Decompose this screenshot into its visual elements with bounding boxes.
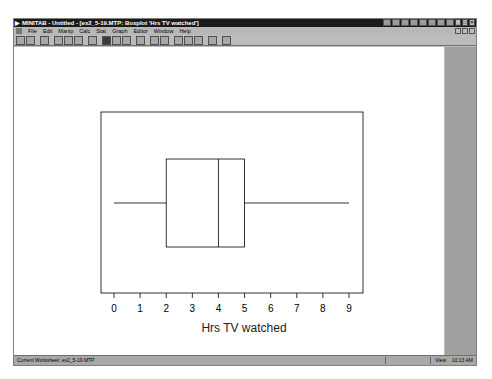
brush-icon[interactable] <box>112 36 121 45</box>
menu-file[interactable]: File <box>28 27 37 35</box>
menu-calc[interactable]: Calc <box>79 27 90 35</box>
x-tick-label: 0 <box>111 303 117 314</box>
tool-button-icon[interactable] <box>419 19 427 26</box>
worksheet-icon[interactable] <box>160 36 169 45</box>
status-divider <box>385 357 386 364</box>
tool-button-icon[interactable] <box>428 19 436 26</box>
menu-editor[interactable]: Editor <box>133 27 147 35</box>
x-tick-label: 8 <box>320 303 326 314</box>
toolbar <box>14 35 476 46</box>
help-icon[interactable] <box>222 36 231 45</box>
minitab-window: ▶MINITAB - Untitled - [ex2_5-19.MTP: Box… <box>13 18 477 366</box>
close-button[interactable]: × <box>469 19 475 26</box>
doc-restore-button[interactable] <box>462 28 468 34</box>
tool-button-icon[interactable] <box>401 19 409 26</box>
restore-button[interactable]: □ <box>462 19 468 26</box>
graph-window: 0123456789 Hrs TV watched <box>14 47 444 357</box>
side-panel <box>445 47 476 357</box>
menu-window[interactable]: Window <box>154 27 174 35</box>
tool-button-icon[interactable] <box>392 19 400 26</box>
x-tick-label: 2 <box>163 303 169 314</box>
manage-icon[interactable] <box>194 36 203 45</box>
doc-close-button[interactable] <box>469 28 475 34</box>
open-icon[interactable] <box>16 36 25 45</box>
title-toolbar <box>383 19 454 27</box>
save-icon[interactable] <box>26 36 35 45</box>
x-axis-tick-labels: 0123456789 <box>111 303 352 314</box>
menu-stat[interactable]: Stat <box>96 27 106 35</box>
undo-icon[interactable] <box>88 36 97 45</box>
menu-bar: File Edit Manip Calc Stat Graph Editor W… <box>14 27 476 35</box>
tool-button-icon[interactable] <box>437 19 445 26</box>
graph-icon[interactable] <box>136 36 145 45</box>
x-tick-label: 4 <box>216 303 222 314</box>
x-tick-label: 1 <box>137 303 143 314</box>
minitab-icon: ▶ <box>15 19 21 27</box>
menu-edit[interactable]: Edit <box>43 27 52 35</box>
history-icon[interactable] <box>184 36 193 45</box>
copy-icon[interactable] <box>64 36 73 45</box>
minimize-button[interactable]: _ <box>455 19 461 26</box>
menu-manip[interactable]: Manip <box>58 27 73 35</box>
status-worksheet: Current Worksheet: ex2_5-19.MTP <box>17 356 94 365</box>
x-axis-ticks <box>114 293 349 298</box>
plot-frame <box>101 112 363 293</box>
document-icon[interactable] <box>16 28 22 34</box>
cut-icon[interactable] <box>54 36 63 45</box>
info-icon[interactable] <box>174 36 183 45</box>
menu-help[interactable]: Help <box>179 27 190 35</box>
session-icon[interactable] <box>150 36 159 45</box>
select-icon[interactable] <box>122 36 131 45</box>
document-window-controls <box>455 27 475 34</box>
title-bar[interactable]: ▶MINITAB - Untitled - [ex2_5-19.MTP: Box… <box>14 19 476 27</box>
status-time: 10:13 AM <box>452 356 473 365</box>
tool-button-icon[interactable] <box>446 19 454 26</box>
tool-button-icon[interactable] <box>383 19 391 26</box>
boxplot-chart: 0123456789 Hrs TV watched <box>14 47 444 357</box>
window-controls: _ □ × <box>455 19 475 26</box>
status-mode: View <box>435 356 446 365</box>
doc-minimize-button[interactable] <box>455 28 461 34</box>
tool-button-icon[interactable] <box>410 19 418 26</box>
status-bar: Current Worksheet: ex2_5-19.MTP View 10:… <box>14 355 476 365</box>
x-tick-label: 6 <box>268 303 274 314</box>
window-title: MINITAB - Untitled - [ex2_5-19.MTP: Boxp… <box>22 20 199 26</box>
x-axis-label: Hrs TV watched <box>201 321 286 335</box>
print-icon[interactable] <box>40 36 49 45</box>
paste-icon[interactable] <box>74 36 83 45</box>
x-tick-label: 5 <box>242 303 248 314</box>
cancel-icon[interactable] <box>208 36 217 45</box>
x-tick-label: 3 <box>190 303 196 314</box>
x-tick-label: 9 <box>346 303 352 314</box>
edit-last-dialog-icon[interactable] <box>102 36 111 45</box>
menu-graph[interactable]: Graph <box>112 27 127 35</box>
x-tick-label: 7 <box>294 303 300 314</box>
status-divider <box>430 357 431 364</box>
